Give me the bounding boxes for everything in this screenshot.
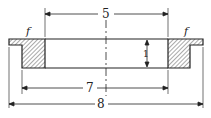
dimension-label-1: 1: [143, 49, 149, 59]
surface-label-left: f: [25, 25, 32, 38]
left-section: [9, 39, 45, 68]
dimension-label-7: 7: [86, 81, 94, 95]
flange-section-diagram: 5 7 8 1 f f: [0, 0, 211, 118]
dimension-label-8: 8: [97, 97, 105, 111]
dimension-8: [9, 102, 203, 106]
dimension-label-5: 5: [102, 7, 110, 21]
surface-label-right: f: [183, 25, 190, 38]
right-section: [168, 39, 203, 68]
dimension-7: [22, 86, 168, 90]
